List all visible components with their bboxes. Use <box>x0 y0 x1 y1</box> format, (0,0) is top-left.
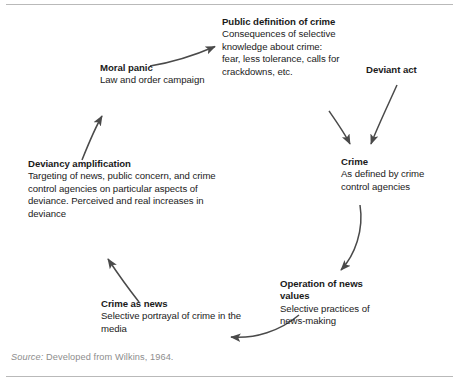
arrow-deviant-act-to-crime <box>371 85 397 144</box>
node-body: Law and order campaign <box>100 74 210 86</box>
source-caption: Source: Developed from Wilkins, 1964. <box>11 352 174 362</box>
arrow-crime-as-news-to-deviancy-amplification <box>108 259 139 302</box>
source-label: Source: <box>11 352 43 362</box>
node-body: Consequences of selective knowledge abou… <box>222 28 342 78</box>
node-heading: Crime as news <box>101 298 251 310</box>
node-body: Selective practices of news-making <box>280 303 395 328</box>
node-operation-of-news-values: Operation of news values Selective pract… <box>280 278 395 328</box>
arrow-crime-to-operation-of-news-values <box>341 205 361 270</box>
bottom-divider-rule <box>6 376 453 377</box>
node-crime-as-news: Crime as news Selective portrayal of cri… <box>101 298 251 335</box>
figure-container: Public definition of crime Consequences … <box>0 0 459 386</box>
node-heading: Deviant act <box>366 64 458 76</box>
node-deviancy-amplification: Deviancy amplification Targeting of news… <box>28 158 218 220</box>
source-text: Developed from Wilkins, 1964. <box>46 352 174 362</box>
arrow-deviancy-amplification-to-moral-panic <box>82 116 102 160</box>
node-body: As defined by crime control agencies <box>341 168 441 193</box>
node-deviant-act: Deviant act <box>366 64 458 76</box>
arrow-public-definition-to-crime <box>329 111 350 144</box>
top-divider-rule <box>6 4 453 5</box>
node-heading: Crime <box>341 156 441 168</box>
node-heading: Operation of news values <box>280 278 395 303</box>
node-heading: Deviancy amplification <box>28 158 218 170</box>
node-crime: Crime As defined by crime control agenci… <box>341 156 441 193</box>
node-body: Targeting of news, public concern, and c… <box>28 170 218 220</box>
node-public-definition-of-crime: Public definition of crime Consequences … <box>222 16 342 78</box>
node-moral-panic: Moral panic Law and order campaign <box>100 62 210 87</box>
node-body: Selective portrayal of crime in the medi… <box>101 310 251 335</box>
node-heading: Public definition of crime <box>222 16 342 28</box>
node-heading: Moral panic <box>100 62 210 74</box>
